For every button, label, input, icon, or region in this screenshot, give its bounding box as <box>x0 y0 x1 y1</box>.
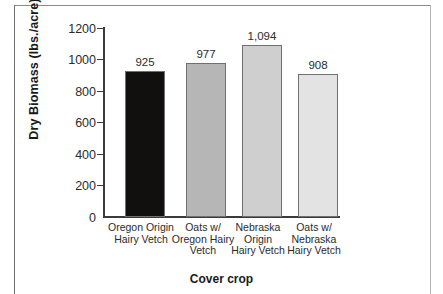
y-tick-label-1000: 1000 <box>52 54 96 67</box>
page-rule-left <box>14 5 15 294</box>
bar-value-label-3: 908 <box>288 60 348 72</box>
bar-oats-w-oregon-hairy-vetch <box>186 63 226 217</box>
x-category-label-3: Oats w/ Nebraska Hairy Vetch <box>270 222 358 257</box>
bar-oregon-origin-hairy-vetch <box>125 71 165 217</box>
y-axis-tick-labels: 1200 1000 800 600 400 200 0 <box>48 0 96 294</box>
page-rule-right <box>430 5 431 294</box>
bar-nebraska-origin-hairy-vetch <box>242 45 282 217</box>
x-category-label-3-line-2: Hairy Vetch <box>270 245 358 257</box>
x-axis-title: Cover crop <box>104 272 339 286</box>
y-tick-label-1200: 1200 <box>52 23 96 36</box>
y-axis-title: Dry Biomass (lbs./acre) <box>27 0 41 149</box>
chart-figure: Dry Biomass (lbs./acre) 1200 1000 800 60… <box>0 0 443 294</box>
y-tick-label-400: 400 <box>52 149 96 162</box>
bar-value-label-0: 925 <box>115 57 175 69</box>
y-tick-label-200: 200 <box>52 180 96 193</box>
y-tick-label-600: 600 <box>52 117 96 130</box>
y-tick-label-800: 800 <box>52 86 96 99</box>
plot-area: 925 977 1,094 908 <box>104 28 339 217</box>
bar-value-label-1: 977 <box>176 49 236 61</box>
x-category-label-3-line-0: Oats w/ <box>270 222 358 234</box>
bar-value-label-2: 1,094 <box>232 31 292 43</box>
bar-oats-w-nebraska-hairy-vetch <box>298 74 338 217</box>
y-tick-label-0: 0 <box>52 212 96 225</box>
